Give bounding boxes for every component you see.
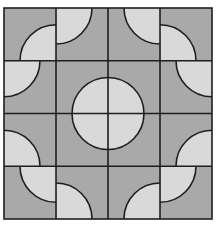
tile-grid-diagram [0,0,217,225]
tile-pattern-figure [0,0,217,225]
